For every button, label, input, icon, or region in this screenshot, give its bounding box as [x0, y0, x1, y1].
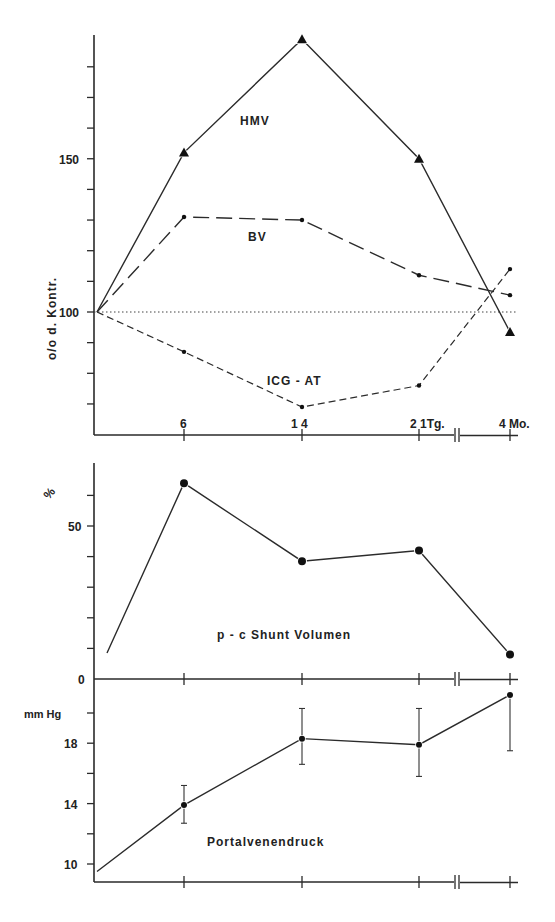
- ytick-label-150: 150: [59, 153, 79, 167]
- xtick-label-14: 1 4: [291, 417, 308, 431]
- series-line-bv: [97, 217, 510, 312]
- dot-marker: [181, 802, 187, 808]
- dot-marker: [508, 267, 512, 271]
- series: [97, 34, 515, 871]
- dot-marker: [300, 405, 304, 409]
- ytick-label-10: 10: [64, 858, 78, 872]
- xtick-label-21-tg: 2 1Tg.: [410, 417, 445, 431]
- dot-marker: [416, 742, 422, 748]
- dot-marker: [180, 479, 188, 487]
- top-y-axis-label: o/o d. Kontr.: [45, 277, 59, 360]
- triangle-marker: [505, 327, 515, 336]
- dot-marker: [417, 273, 421, 277]
- ytick-label-14: 14: [64, 798, 78, 812]
- xtick-label-6: 6: [180, 417, 187, 431]
- dot-marker: [182, 350, 186, 354]
- series-label-icg-at: ICG - AT: [267, 374, 322, 388]
- series-label-bv: BV: [248, 230, 267, 244]
- triangle-marker: [297, 34, 307, 43]
- ytick-label-18: 18: [64, 737, 78, 751]
- dot-marker: [415, 546, 423, 554]
- series-label-shunt: p - c Shunt Volumen: [217, 628, 351, 642]
- dot-marker: [300, 218, 304, 222]
- series-label-portalvenendruck: Portalvenendruck: [207, 835, 324, 849]
- dot-marker: [299, 736, 305, 742]
- middle-y-axis-label: %: [41, 484, 59, 502]
- series-line-hmv: [97, 39, 510, 332]
- dot-marker: [508, 293, 512, 297]
- bottom-y-axis-label: mm Hg: [24, 708, 61, 720]
- chart-svg: o/o d. Kontr. 150 100 HMV BV ICG - AT 6 …: [0, 0, 555, 922]
- chart-figure: o/o d. Kontr. 150 100 HMV BV ICG - AT 6 …: [0, 0, 555, 922]
- dot-marker: [506, 651, 514, 659]
- dot-marker: [182, 215, 186, 219]
- xtick-label-4-mo: 4 Mo.: [499, 417, 530, 431]
- series-label-hmv: HMV: [240, 114, 270, 128]
- ytick-label-0: 0: [78, 673, 85, 687]
- ytick-label-50: 50: [68, 520, 82, 534]
- dot-marker: [507, 692, 513, 698]
- ytick-label-100: 100: [59, 306, 79, 320]
- dot-marker: [298, 557, 306, 565]
- dot-marker: [417, 383, 421, 387]
